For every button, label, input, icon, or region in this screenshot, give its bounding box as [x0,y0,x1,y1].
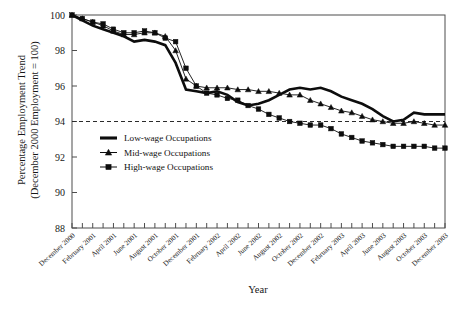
chart-figure: 889092949698100 December 2000February 20… [0,0,463,312]
svg-text:Year: Year [248,284,268,295]
data-point-marker [184,66,189,71]
data-point-marker [267,112,272,117]
y-axis-title: Percentage Employment Trend (December 20… [16,41,41,199]
data-point-marker [443,146,448,151]
x-axis-title: Year [248,284,268,295]
data-point-marker [329,126,334,131]
data-point-marker [412,144,417,149]
data-point-marker [173,39,178,44]
data-point-marker [287,119,292,124]
data-point-marker [432,146,437,151]
y-tick-label: 100 [50,10,65,21]
data-point-marker [370,141,375,146]
legend-item-label: High-wage Occupations [124,162,213,172]
employment-trend-line-chart: 889092949698100 December 2000February 20… [0,0,463,312]
data-point-marker [422,144,427,149]
legend-item-label: Low-wage Occupations [124,133,212,143]
svg-text:Percentage Employment Trend: Percentage Employment Trend [16,54,27,185]
y-tick-label: 96 [55,81,65,92]
data-point-marker [339,132,344,137]
legend-swatch-square-marker [106,164,111,169]
svg-text:(December 2000 Employment = 10: (December 2000 Employment = 100) [29,41,41,199]
data-point-marker [318,123,323,128]
plot-background [0,0,463,312]
data-point-marker [308,123,313,128]
y-tick-label: 92 [55,152,65,163]
data-point-marker [349,135,354,140]
y-tick-label: 90 [55,187,65,198]
data-point-marker [298,121,303,126]
data-point-marker [391,144,396,149]
y-tick-label: 88 [55,223,65,234]
data-point-marker [381,142,386,147]
y-tick-label: 98 [55,45,65,56]
data-point-marker [215,93,220,98]
legend-item-label: Mid-wage Occupations [124,148,210,158]
data-point-marker [401,144,406,149]
data-point-marker [360,139,365,144]
data-point-marker [256,107,261,112]
data-point-marker [277,116,282,121]
y-tick-label: 94 [55,116,65,127]
